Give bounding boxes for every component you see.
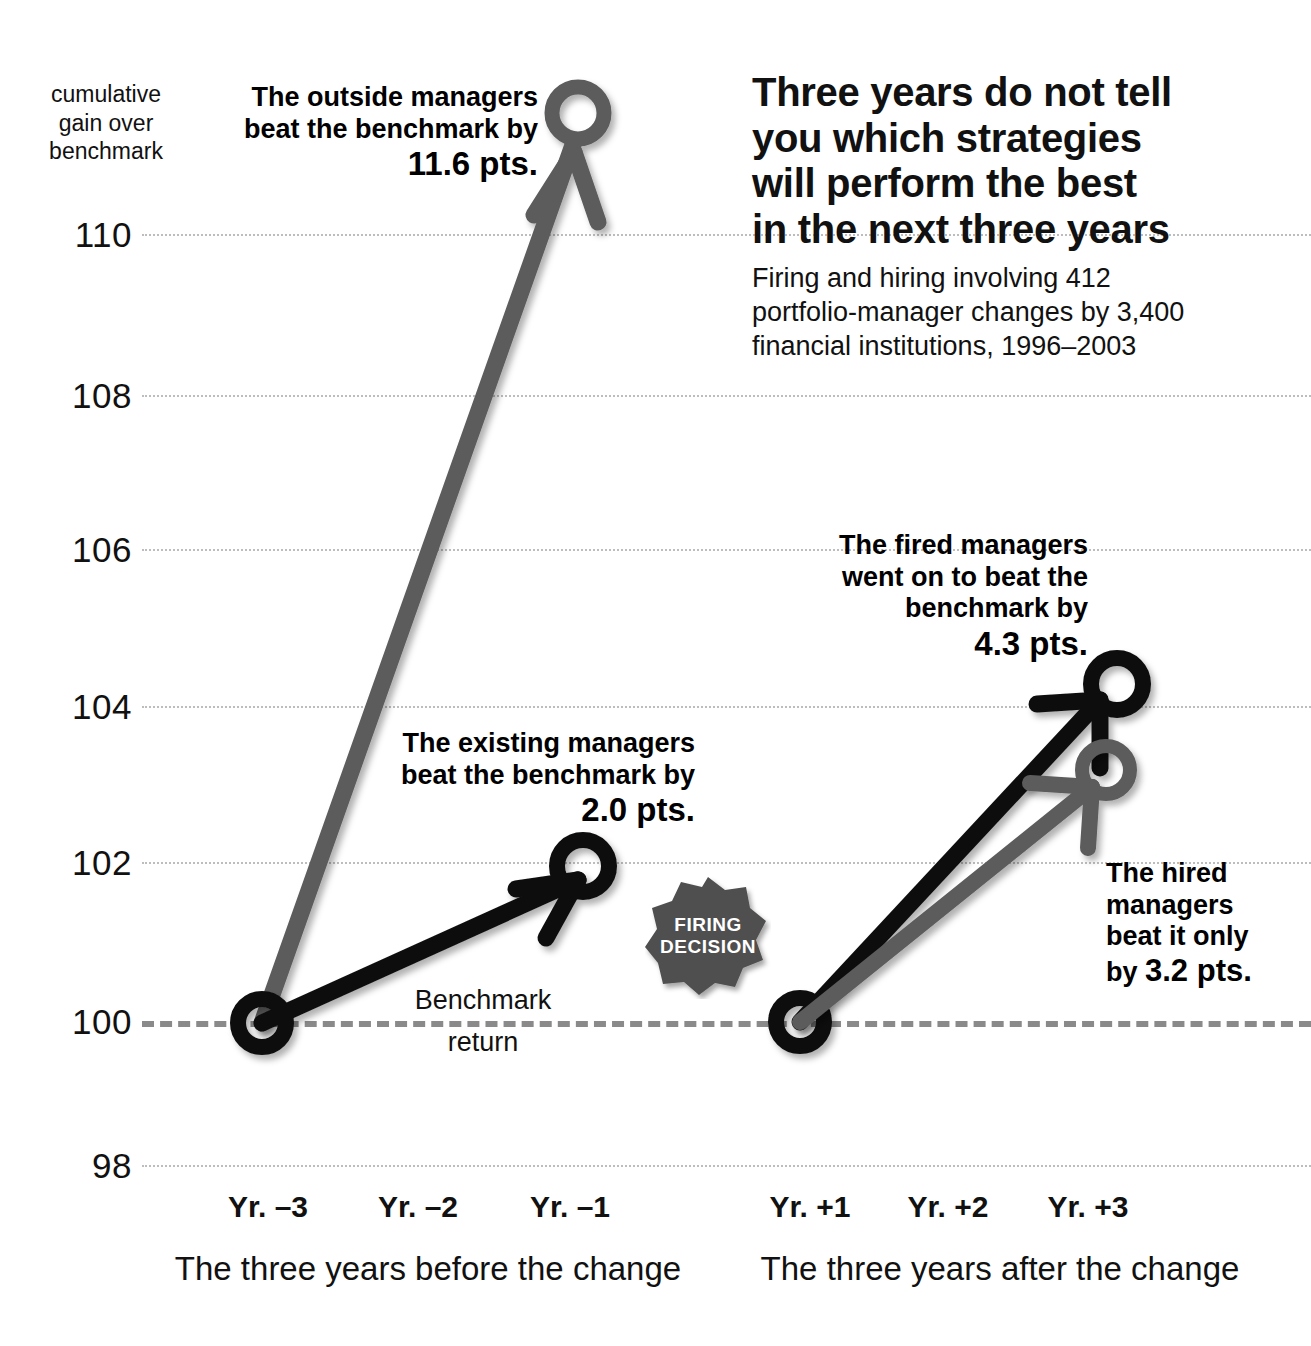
callout-existing-line-1: The existing managers	[380, 728, 695, 760]
callout-outside-managers: The outside managers beat the benchmark …	[238, 82, 538, 184]
firing-decision-badge-text: FIRING DECISION	[645, 873, 771, 999]
chart-title: Three years do not tell you which strate…	[752, 70, 1222, 252]
callout-fired-line-1: The fired managers	[828, 530, 1088, 562]
callout-hired-line-3: beat it only	[1106, 921, 1296, 953]
callout-outside-value: 11.6 pts.	[238, 145, 538, 184]
x-tick-yr-minus-1: Yr. –1	[500, 1190, 640, 1224]
badge-line-2: DECISION	[660, 936, 756, 958]
callout-hired-line-1: The hired	[1106, 858, 1296, 890]
x-group-label-after: The three years after the change	[700, 1250, 1300, 1288]
benchmark-label-line-1: Benchmark	[393, 980, 573, 1022]
chart-title-line-1: Three years do not tell	[752, 70, 1222, 116]
chart-subtitle-line-1: Firing and hiring involving 412	[752, 261, 1222, 295]
callout-existing-value: 2.0 pts.	[380, 791, 695, 830]
x-tick-yr-minus-2: Yr. –2	[348, 1190, 488, 1224]
benchmark-label-line-2: return	[393, 1022, 573, 1064]
x-group-label-before: The three years before the change	[118, 1250, 738, 1288]
callout-hired-managers: The hired managers beat it only by 3.2 p…	[1106, 858, 1296, 989]
callout-existing-line-2: beat the benchmark by	[380, 760, 695, 792]
callout-fired-managers: The fired managers went on to beat the b…	[828, 530, 1088, 663]
chart-title-line-3: will perform the best	[752, 161, 1222, 207]
callout-outside-line-1: The outside managers	[238, 82, 538, 114]
callout-hired-prefix: by	[1106, 957, 1145, 987]
callout-hired-value: 3.2 pts.	[1145, 953, 1252, 988]
x-tick-yr-plus-3: Yr. +3	[1018, 1190, 1158, 1224]
callout-fired-line-3: benchmark by	[828, 593, 1088, 625]
callout-existing-managers: The existing managers beat the benchmark…	[380, 728, 695, 830]
badge-line-1: FIRING	[674, 914, 741, 936]
chart-title-line-2: you which strategies	[752, 116, 1222, 162]
firing-decision-badge: FIRING DECISION	[645, 873, 771, 999]
chart-canvas: cumulative gain over benchmark 110 108 1…	[0, 0, 1311, 1346]
benchmark-return-label: Benchmark return	[393, 980, 573, 1064]
title-block: Three years do not tell you which strate…	[752, 70, 1222, 363]
callout-outside-line-2: beat the benchmark by	[238, 114, 538, 146]
x-tick-yr-plus-2: Yr. +2	[878, 1190, 1018, 1224]
chart-subtitle: Firing and hiring involving 412 portfoli…	[752, 261, 1222, 363]
x-tick-yr-plus-1: Yr. +1	[740, 1190, 880, 1224]
callout-hired-line-4: by 3.2 pts.	[1106, 953, 1296, 989]
callout-fired-value: 4.3 pts.	[828, 625, 1088, 664]
callout-fired-line-2: went on to beat the	[828, 562, 1088, 594]
chart-title-line-4: in the next three years	[752, 207, 1222, 253]
chart-subtitle-line-2: portfolio-manager changes by 3,400	[752, 295, 1222, 329]
x-tick-yr-minus-3: Yr. –3	[198, 1190, 338, 1224]
series-hired-managers	[800, 746, 1130, 1022]
callout-hired-line-2: managers	[1106, 890, 1296, 922]
chart-subtitle-line-3: financial institutions, 1996–2003	[752, 329, 1222, 363]
